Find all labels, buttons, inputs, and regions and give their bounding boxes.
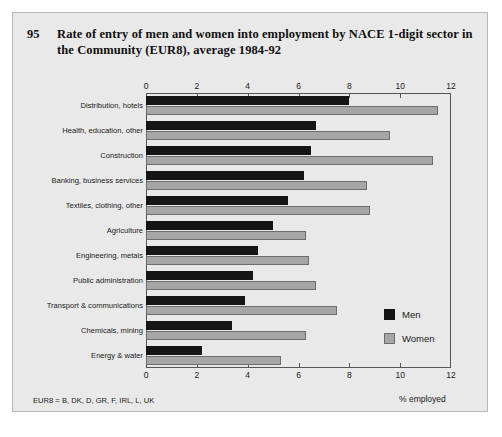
bar-men bbox=[146, 196, 288, 205]
legend-label-women: Women bbox=[402, 333, 435, 344]
x-axis-tick-label: 0 bbox=[144, 370, 149, 380]
bar-women bbox=[146, 206, 370, 215]
tick-mark bbox=[450, 93, 451, 98]
x-axis-title: % employed bbox=[399, 394, 446, 404]
x-axis-tick-label: 12 bbox=[446, 81, 455, 91]
x-axis-tick-label: 2 bbox=[194, 370, 199, 380]
figure-number: 95 bbox=[27, 27, 57, 43]
legend-swatch-women-icon bbox=[384, 333, 395, 344]
legend-swatch-men-icon bbox=[384, 309, 395, 320]
x-axis-bottom-labels: 024681012 bbox=[146, 370, 451, 382]
y-axis-category-label: Chemicals, mining bbox=[81, 326, 143, 335]
bar-men bbox=[146, 121, 316, 130]
y-axis-category-label: Construction bbox=[100, 151, 143, 160]
y-axis-category-label: Engineering, metals bbox=[76, 251, 143, 260]
y-axis-category-label: Energy & water bbox=[91, 351, 143, 360]
figure-footnote: EUR8 = B, DK, D, GR, F, IRL, L, UK bbox=[33, 396, 154, 405]
tick-mark bbox=[450, 363, 451, 368]
x-axis-tick-label: 12 bbox=[446, 370, 455, 380]
bar-men bbox=[146, 246, 258, 255]
bar-men bbox=[146, 146, 311, 155]
y-axis-category-label: Distribution, hotels bbox=[81, 101, 143, 110]
x-axis-tick-label: 6 bbox=[296, 370, 301, 380]
x-axis-tick-label: 8 bbox=[347, 370, 352, 380]
chart-legend: Men Women bbox=[384, 309, 435, 357]
bar-men bbox=[146, 271, 253, 280]
y-axis-category-label: Transport & communications bbox=[47, 301, 143, 310]
bar-men bbox=[146, 346, 202, 355]
bar-men bbox=[146, 296, 245, 305]
tick-mark bbox=[349, 363, 350, 368]
bar-men bbox=[146, 171, 304, 180]
bar-women bbox=[146, 331, 306, 340]
legend-label-men: Men bbox=[402, 309, 420, 320]
y-axis-category-label: Public administration bbox=[73, 276, 143, 285]
x-axis-top-labels: 024681012 bbox=[146, 81, 451, 93]
bar-women bbox=[146, 356, 281, 365]
bar-men bbox=[146, 321, 232, 330]
bar-women bbox=[146, 281, 316, 290]
y-axis-category-labels: Distribution, hotelsHealth, education, o… bbox=[31, 93, 143, 368]
bar-men bbox=[146, 96, 349, 105]
bar-women bbox=[146, 131, 390, 140]
page-title: Rate of entry of men and women into empl… bbox=[57, 27, 477, 58]
bar-women bbox=[146, 156, 433, 165]
x-axis-tick-label: 0 bbox=[144, 81, 149, 91]
y-axis-category-label: Textiles, clothing, other bbox=[66, 201, 143, 210]
x-axis-tick-label: 6 bbox=[296, 81, 301, 91]
y-axis-category-label: Banking, business services bbox=[51, 176, 143, 185]
figure-title-block: 95 Rate of entry of men and women into e… bbox=[27, 27, 477, 58]
bar-women bbox=[146, 231, 306, 240]
bar-women bbox=[146, 106, 438, 115]
x-axis-tick-label: 4 bbox=[245, 370, 250, 380]
legend-item-men: Men bbox=[384, 309, 435, 320]
bar-women bbox=[146, 306, 337, 315]
x-axis-tick-label: 10 bbox=[395, 81, 404, 91]
tick-mark bbox=[400, 93, 401, 98]
tick-mark bbox=[299, 363, 300, 368]
x-axis-tick-label: 2 bbox=[194, 81, 199, 91]
bar-men bbox=[146, 221, 273, 230]
x-axis-tick-label: 8 bbox=[347, 81, 352, 91]
tick-mark bbox=[349, 93, 350, 98]
bar-women bbox=[146, 256, 309, 265]
bar-women bbox=[146, 181, 367, 190]
legend-item-women: Women bbox=[384, 333, 435, 344]
figure-panel: 95 Rate of entry of men and women into e… bbox=[12, 12, 488, 412]
x-axis-tick-label: 4 bbox=[245, 81, 250, 91]
y-axis-category-label: Agriculture bbox=[107, 226, 143, 235]
y-axis-category-label: Health, education, other bbox=[62, 126, 143, 135]
x-axis-tick-label: 10 bbox=[395, 370, 404, 380]
tick-mark bbox=[400, 363, 401, 368]
